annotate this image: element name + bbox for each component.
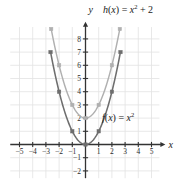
data-point-marker [118, 27, 121, 30]
x-tick-label: −3 [42, 147, 50, 156]
x-tick-label: 2 [110, 147, 114, 156]
data-point-marker [110, 90, 113, 93]
y-tick-label: 8 [77, 35, 81, 44]
data-point-marker [49, 50, 52, 53]
y-tick-label: 7 [77, 48, 81, 57]
x-tick-label: −2 [55, 147, 63, 156]
x-tick-label: 4 [136, 147, 140, 156]
data-point-marker [57, 90, 60, 93]
data-point-marker [84, 116, 87, 119]
curve-label-h: h(x) = x2 + 2 [103, 5, 153, 15]
coordinate-plane: −5−4−3−2−11234587654321−1−2 [0, 0, 177, 186]
x-axis-label: x [168, 140, 172, 150]
y-axis-label: y [89, 5, 93, 15]
y-tick-label: 1 [77, 127, 81, 136]
x-tick-label: 5 [150, 147, 154, 156]
y-tick-label: −1 [73, 153, 81, 162]
y-tick-label: 3 [77, 101, 81, 110]
y-tick-label: 5 [77, 74, 81, 83]
graph-figure: −5−4−3−2−11234587654321−1−2 y x h(x) = x… [0, 0, 177, 186]
data-point-marker [84, 143, 87, 146]
data-point-marker [71, 103, 74, 106]
data-point-marker [71, 130, 74, 133]
data-point-marker [49, 27, 52, 30]
y-tick-label: 6 [77, 61, 81, 70]
curve-label-f: f(x) = x2 [102, 113, 134, 123]
data-point-marker [97, 130, 100, 133]
y-tick-label: −2 [73, 167, 81, 176]
data-point-marker [57, 64, 60, 67]
y-tick-label: 4 [77, 87, 81, 96]
x-tick-label: 1 [97, 147, 101, 156]
data-point-marker [97, 103, 100, 106]
x-tick-label: 3 [123, 147, 127, 156]
data-point-marker [119, 50, 122, 53]
data-point-marker [110, 64, 113, 67]
x-tick-label: −5 [16, 147, 24, 156]
x-tick-label: −4 [29, 147, 37, 156]
